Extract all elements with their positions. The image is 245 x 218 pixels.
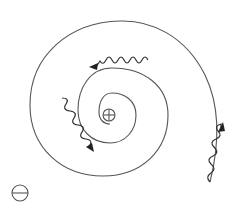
arrowhead-icon xyxy=(86,143,94,152)
negative-charge-icon xyxy=(12,185,28,201)
atom-spiral-diagram xyxy=(0,0,245,218)
arrowhead-icon xyxy=(89,63,98,70)
electron-spiral-path xyxy=(30,21,217,182)
positive-charge-icon xyxy=(103,109,115,121)
